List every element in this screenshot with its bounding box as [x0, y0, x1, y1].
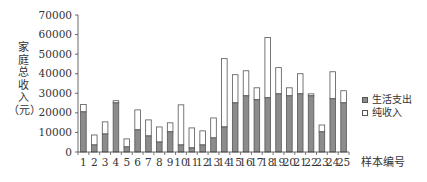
y-tick-label: 20000 [39, 106, 72, 118]
bar-living-expense [167, 132, 173, 152]
legend-label: 纯收入 [372, 107, 402, 119]
bar-net-income [330, 72, 336, 99]
bar-net-income [157, 127, 163, 142]
y-tick-label: 30000 [39, 87, 72, 99]
y-tick-label: 60000 [39, 28, 72, 40]
bar-living-expense [102, 134, 108, 152]
bar-net-income [81, 104, 87, 111]
x-tick-label: 8 [156, 156, 163, 168]
bar-net-income [222, 59, 228, 127]
bar-living-expense [157, 142, 163, 152]
bars [81, 38, 347, 152]
bar-living-expense [287, 96, 293, 152]
x-tick-label: 3 [102, 156, 109, 168]
x-tick-label: 2 [91, 156, 98, 168]
bar-net-income [265, 38, 271, 98]
x-tick-label: 4 [113, 156, 120, 168]
bar-living-expense [254, 100, 260, 152]
bar-net-income [297, 74, 303, 94]
bar-net-income [146, 120, 152, 136]
bar-living-expense [146, 136, 152, 152]
bar-net-income [167, 123, 173, 132]
y-tick-label: 0 [65, 146, 72, 158]
x-axis: 1234567891011121314151617181920212223242… [78, 152, 350, 168]
bar-net-income [319, 125, 325, 132]
bar-living-expense [189, 148, 195, 152]
bar-net-income [189, 128, 195, 148]
x-tick-label: 6 [134, 156, 141, 168]
x-tick-label: 1 [80, 156, 87, 168]
legend: 生活支出 纯收入 [362, 93, 412, 119]
bar-living-expense [135, 130, 141, 152]
bar-living-expense [232, 103, 238, 152]
legend-swatch-gray-icon [362, 97, 368, 103]
bar-net-income [254, 88, 260, 100]
bar-living-expense [265, 98, 271, 152]
y-axis-title: 家 庭 总 收 入 （元） [16, 42, 30, 117]
bar-living-expense [124, 147, 130, 152]
bar-living-expense [243, 96, 249, 152]
bar-living-expense [222, 127, 228, 152]
bar-living-expense [308, 96, 314, 152]
y-tick-label: 50000 [39, 48, 72, 60]
y-axis: 010000200003000040000500006000070000 [39, 9, 78, 158]
bar-net-income [341, 91, 347, 103]
y-tick-label: 70000 [39, 9, 72, 21]
bar-living-expense [319, 132, 325, 152]
y-label-char: 家 [16, 42, 30, 55]
y-label-char: 入 [16, 92, 30, 105]
legend-item-net-income: 纯收入 [362, 106, 412, 119]
bar-net-income [200, 131, 206, 145]
bar-living-expense [178, 145, 184, 152]
legend-item-expense: 生活支出 [362, 93, 412, 106]
y-tick-label: 10000 [39, 126, 72, 138]
bar-living-expense [81, 112, 87, 152]
y-label-char: 总 [16, 67, 30, 80]
bar-net-income [135, 110, 141, 130]
x-tick-label: 25 [337, 156, 350, 168]
bar-net-income [243, 71, 249, 96]
bar-living-expense [297, 94, 303, 152]
bar-living-expense [341, 103, 347, 152]
bar-net-income [276, 68, 282, 94]
bar-living-expense [91, 145, 97, 152]
x-axis-title: 样本编号 [361, 153, 405, 169]
legend-label: 生活支出 [372, 94, 412, 106]
y-label-unit: （元） [8, 105, 38, 118]
x-tick-label: 7 [145, 156, 152, 168]
bar-net-income [124, 139, 130, 147]
bar-net-income [287, 88, 293, 96]
bar-net-income [178, 105, 184, 145]
bar-living-expense [276, 94, 282, 152]
x-tick-label: 9 [167, 156, 174, 168]
bar-net-income [211, 118, 217, 138]
x-tick-label: 5 [123, 156, 130, 168]
y-tick-label: 40000 [39, 67, 72, 79]
bar-net-income [232, 75, 238, 103]
bar-living-expense [211, 138, 217, 152]
bar-net-income [102, 122, 108, 134]
bar-living-expense [113, 103, 119, 152]
bar-net-income [91, 135, 97, 145]
bar-living-expense [200, 145, 206, 152]
bar-living-expense [330, 99, 336, 152]
legend-swatch-white-icon [362, 110, 368, 116]
